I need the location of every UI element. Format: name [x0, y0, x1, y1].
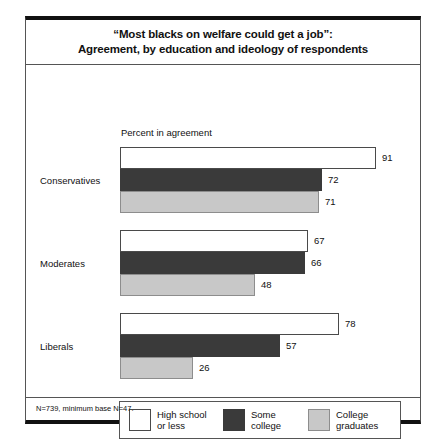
bar-some-college: [120, 169, 322, 191]
bar-row: 91: [120, 147, 410, 169]
bar-group-conservatives: Conservatives 91 72 71: [26, 145, 420, 221]
bar-row: 66: [120, 252, 410, 274]
bar-row: 71: [120, 191, 410, 213]
bar-set: 67 66 48: [120, 228, 410, 304]
bar-value-label: 57: [286, 340, 297, 351]
axis-caption: Percent in agreement: [121, 127, 212, 138]
bar-college-graduates: [120, 274, 255, 296]
bar-high-school: [120, 147, 376, 169]
bar-some-college: [120, 252, 305, 274]
chart-plot-area: Percent in agreement Conservatives 91 72…: [26, 65, 420, 375]
bar-value-label: 71: [325, 196, 336, 207]
bar-college-graduates: [120, 357, 193, 379]
bar-row: 26: [120, 357, 410, 379]
bar-group-liberals: Liberals 78 57 26: [26, 311, 420, 387]
bar-row: 67: [120, 230, 410, 252]
bar-high-school: [120, 313, 339, 335]
bar-value-label: 78: [345, 318, 356, 329]
bar-value-label: 91: [382, 152, 393, 163]
bar-set: 78 57 26: [120, 311, 410, 387]
legend-label-line-2: or less: [157, 420, 185, 431]
bar-value-label: 48: [261, 279, 272, 290]
bar-row: 78: [120, 313, 410, 335]
category-label: Moderates: [40, 258, 85, 269]
chart-title-line-2: Agreement, by education and ideology of …: [36, 42, 410, 57]
category-label: Conservatives: [40, 175, 100, 186]
bar-value-label: 67: [314, 235, 325, 246]
bar-value-label: 72: [328, 174, 339, 185]
bar-row: 57: [120, 335, 410, 357]
chart-title: “Most blacks on welfare could get a job”…: [26, 20, 420, 65]
bar-some-college: [120, 335, 280, 357]
category-label: Liberals: [40, 341, 73, 352]
chart-title-line-1: “Most blacks on welfare could get a job”…: [36, 27, 410, 42]
bar-row: 72: [120, 169, 410, 191]
bar-row: 48: [120, 274, 410, 296]
bar-college-graduates: [120, 191, 319, 213]
figure-frame: “Most blacks on welfare could get a job”…: [25, 16, 421, 424]
bar-value-label: 66: [311, 257, 322, 268]
bar-high-school: [120, 230, 308, 252]
legend-label-line-2: graduates: [336, 420, 378, 431]
bar-value-label: 26: [199, 362, 210, 373]
footnote-block: N=739, minimum base N=47.: [26, 397, 420, 420]
bar-set: 91 72 71: [120, 145, 410, 221]
bar-group-moderates: Moderates 67 66 48: [26, 228, 420, 304]
legend-label-line-2: college: [251, 420, 281, 431]
footnote-text: N=739, minimum base N=47.: [36, 404, 420, 414]
